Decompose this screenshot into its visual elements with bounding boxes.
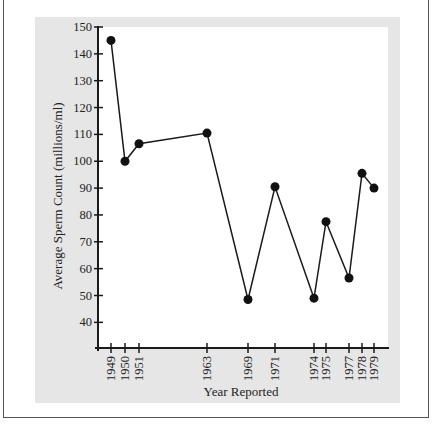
x-tick-label: 1975 xyxy=(319,356,333,381)
data-point xyxy=(271,182,280,191)
y-tick-label: 80 xyxy=(80,208,93,222)
x-axis: 1949195019511963196919711974197519771978… xyxy=(95,343,389,381)
x-tick-label: 1949 xyxy=(104,356,118,381)
x-tick-label: 1951 xyxy=(132,356,146,381)
x-tick-label: 1963 xyxy=(200,356,214,381)
y-tick-label: 40 xyxy=(80,315,93,329)
data-point xyxy=(107,36,116,45)
data-point xyxy=(310,294,319,303)
x-tick-label: 1977 xyxy=(342,356,356,381)
y-tick-label: 140 xyxy=(73,47,92,61)
data-point xyxy=(121,157,130,166)
y-tick-label: 60 xyxy=(80,262,93,276)
y-tick-label: 110 xyxy=(74,127,92,141)
data-point xyxy=(322,217,331,226)
x-tick-label: 1971 xyxy=(268,356,282,381)
y-tick-label: 100 xyxy=(73,154,92,168)
x-tick-label: 1969 xyxy=(241,356,255,381)
y-axis-title: Average Sperm Count (millions/ml) xyxy=(50,102,65,289)
y-tick-label: 150 xyxy=(73,20,92,34)
y-tick-label: 90 xyxy=(80,181,93,195)
data-point xyxy=(203,129,212,138)
y-tick-label: 130 xyxy=(73,74,92,88)
data-point xyxy=(135,139,144,148)
plot-area xyxy=(98,27,388,348)
x-tick-label: 1979 xyxy=(367,356,381,381)
x-axis-title: Year Reported xyxy=(204,384,279,399)
line-chart: 405060708090100110120130140150 194919501… xyxy=(0,0,437,432)
data-point xyxy=(345,274,354,283)
y-tick-label: 120 xyxy=(73,101,92,115)
data-point xyxy=(244,295,253,304)
data-point xyxy=(358,169,367,178)
data-point xyxy=(370,184,379,193)
y-tick-label: 70 xyxy=(80,235,93,249)
x-tick-label: 1950 xyxy=(118,356,132,381)
y-tick-label: 50 xyxy=(80,289,93,303)
